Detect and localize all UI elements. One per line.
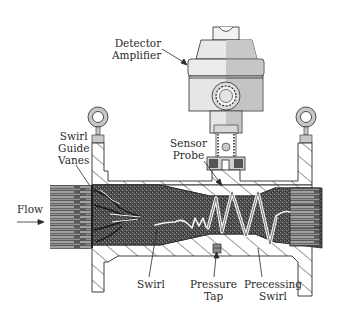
label-swirl: Swirl [137,278,165,290]
swirl-flowmeter-diagram: Detector Amplifier Sensor Probe Swirl Gu… [0,0,339,316]
incoming-flow-streaks [50,185,92,249]
label-flow: Flow [17,203,43,215]
pressure-tap [213,244,221,253]
left-eye-bolt [88,107,108,143]
label-precessing-swirl: Precessing Swirl [244,278,302,302]
label-sensor-probe: Sensor Probe [170,137,207,161]
label-detector-amplifier: Detector Amplifier [112,37,161,61]
label-swirl-guide-vanes: Swirl Guide Vanes [58,130,89,166]
right-eye-bolt [296,107,316,143]
label-pressure-tap: Pressure Tap [190,278,237,302]
flow-straightener [290,188,320,246]
